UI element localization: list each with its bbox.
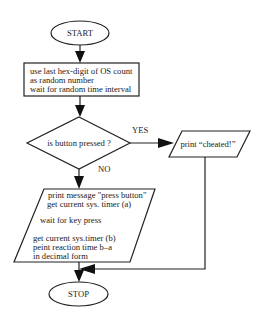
- init-line-3: wait for random time interval: [30, 84, 132, 94]
- stop-label: STOP: [68, 289, 89, 299]
- yes-label: YES: [132, 125, 148, 135]
- arrow-start-to-init: [75, 45, 85, 63]
- decision-label: is button pressed ?: [47, 138, 111, 148]
- stop-node: STOP: [49, 282, 108, 306]
- measure-io-node: print message "press button" get current…: [14, 189, 155, 262]
- measure-line-2: get current sys. timer (a): [47, 199, 131, 209]
- measure-line-6: in decimal form: [33, 251, 88, 261]
- start-node: START: [51, 21, 109, 45]
- arrow-init-to-decision: [75, 96, 85, 117]
- arrow-measure-to-stop: [74, 262, 84, 282]
- start-label: START: [67, 28, 94, 38]
- flowchart-canvas: START use last hex-digit of OS count as …: [0, 0, 260, 318]
- cheated-output-node: print “cheated!”: [169, 131, 250, 157]
- decision-node: is button pressed ?: [27, 117, 130, 169]
- measure-line-3: wait for key press: [40, 215, 102, 225]
- arrow-yes-to-cheated: YES: [130, 125, 174, 148]
- init-process-node: use last hex-digit of OS count as random…: [24, 63, 139, 96]
- cheated-label: print “cheated!”: [180, 139, 235, 149]
- no-label: NO: [98, 164, 110, 174]
